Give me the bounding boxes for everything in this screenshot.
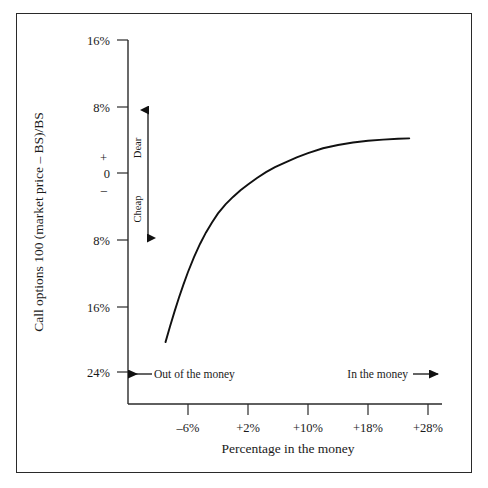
- x-tick-label-1: +2%: [236, 421, 260, 435]
- y-tick-label-4: 16%: [87, 301, 110, 315]
- y-tick-label-5: 24%: [87, 366, 110, 380]
- x-axis-title: Percentage in the money: [221, 441, 354, 456]
- y-tick-label-2: 0: [104, 167, 110, 181]
- in-money-label: In the money: [347, 368, 408, 381]
- cheap-label: Cheap: [132, 196, 143, 223]
- y-axis-title: Call options 100 (market price – BS)/BS: [31, 112, 46, 332]
- y-tick-label-0: 16%: [87, 34, 110, 48]
- mispricing-curve: [166, 138, 410, 342]
- zero-plus-sign: +: [100, 151, 107, 165]
- x-tick-label-3: +18%: [353, 421, 383, 435]
- chart-svg: 16% 8% 0 8% 16% 24% + – –6% +2% +10% +18…: [0, 0, 488, 488]
- out-of-money-label: Out of the money: [154, 368, 235, 381]
- dear-label: Dear: [132, 137, 143, 158]
- figure-container: 16% 8% 0 8% 16% 24% + – –6% +2% +10% +18…: [0, 0, 488, 488]
- zero-minus-sign: –: [100, 183, 108, 197]
- x-tick-label-0: –6%: [176, 421, 200, 435]
- y-tick-label-3: 8%: [93, 234, 110, 248]
- x-tick-label-2: +10%: [293, 421, 323, 435]
- y-tick-label-1: 8%: [93, 101, 110, 115]
- x-tick-label-4: +28%: [413, 421, 443, 435]
